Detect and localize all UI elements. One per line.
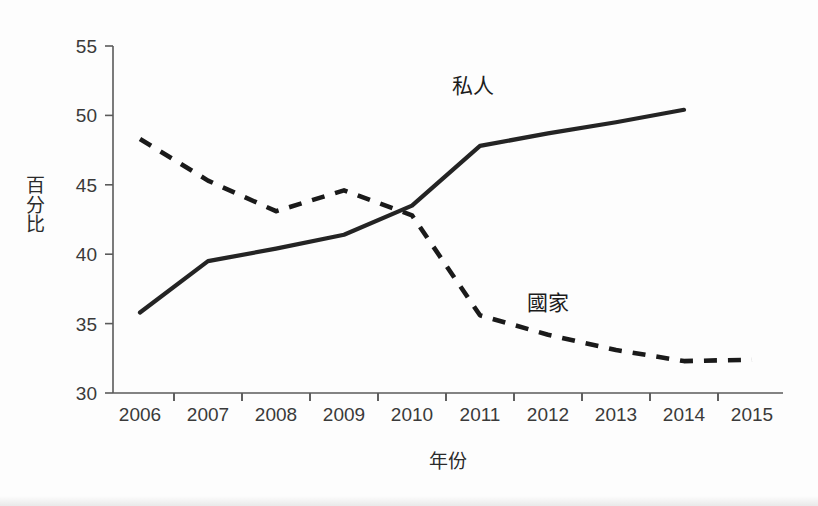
page-edge-smudge [0, 496, 818, 506]
y-tick-label: 30 [76, 383, 97, 404]
y-tick-label: 35 [76, 314, 97, 335]
y-axis-ticks: 303540455055 [76, 36, 113, 404]
x-tick-label: 2007 [187, 404, 229, 425]
series-annotation-state: 國家 [527, 291, 569, 315]
series-line-private [140, 110, 684, 313]
x-axis-ticks: 2006200720082009201020112012201320142015 [119, 393, 773, 425]
x-tick-label: 2008 [255, 404, 297, 425]
y-tick-label: 50 [76, 105, 97, 126]
x-tick-label: 2010 [391, 404, 433, 425]
y-tick-label: 45 [76, 175, 97, 196]
line-chart-canvas: 303540455055 200620072008200920102011201… [0, 0, 818, 506]
y-tick-label: 55 [76, 36, 97, 57]
x-tick-label: 2012 [527, 404, 569, 425]
y-tick-label: 40 [76, 244, 97, 265]
x-tick-label: 2014 [663, 404, 706, 425]
x-tick-label: 2009 [323, 404, 365, 425]
series-annotation-private: 私人 [452, 74, 494, 98]
x-tick-label: 2013 [595, 404, 637, 425]
chart-figure: 303540455055 200620072008200920102011201… [0, 0, 818, 506]
y-axis-title: 百 分 比 [22, 176, 48, 235]
x-tick-label: 2011 [460, 404, 501, 425]
x-tick-label: 2015 [731, 404, 773, 425]
x-axis-title: 年份 [429, 450, 467, 472]
x-tick-label: 2006 [119, 404, 161, 425]
series-line-state [140, 139, 752, 361]
